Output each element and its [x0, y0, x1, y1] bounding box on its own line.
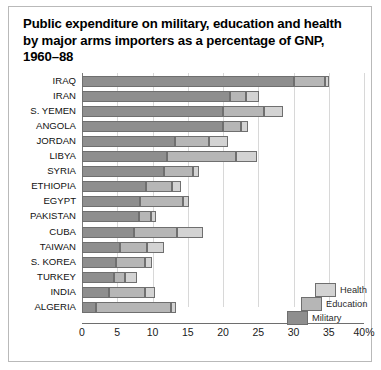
legend-swatch-military [287, 311, 308, 325]
bar-segment-military [82, 227, 134, 238]
bar-row: JORDAN [82, 136, 364, 147]
bar-segment-health [193, 166, 199, 177]
legend-swatch-education [301, 297, 322, 311]
bar-segment-military [82, 166, 164, 177]
bar-segment-health [151, 211, 156, 222]
bar-segment-education [223, 106, 264, 117]
bar-segment-military [82, 211, 139, 222]
bar-row: TURKEY [82, 272, 364, 283]
bar-segment-education [134, 227, 177, 238]
bar-segment-military [82, 181, 146, 192]
x-tick-label-25: 25 [252, 326, 264, 338]
x-tick-label-15: 15 [182, 326, 194, 338]
category-label-pakistan: PAKISTAN [30, 210, 76, 222]
bar-segment-military [82, 242, 120, 253]
legend-label-education: Education [326, 297, 367, 311]
x-tick-label-35: 35 [323, 326, 335, 338]
legend-swatch-health [315, 283, 336, 297]
chart-card: Public expenditure on military, educatio… [8, 6, 372, 362]
bar-segment-education [167, 151, 237, 162]
category-label-taiwan: TAIWAN [40, 241, 76, 253]
category-label-cuba: CUBA [49, 226, 76, 238]
bar-row: CUBA [82, 227, 364, 238]
bar-row: S. KOREA [82, 257, 364, 268]
bar-segment-education [116, 257, 145, 268]
bar-segment-health [125, 272, 137, 283]
category-label-egypt: EGYPT [43, 195, 76, 207]
bar-row: EGYPT [82, 196, 364, 207]
bar-segment-education [140, 196, 183, 207]
bar-row: IRAQ [82, 76, 364, 87]
bar-segment-health [246, 91, 259, 102]
bar-segment-military [82, 106, 223, 117]
bar-segment-education [114, 272, 125, 283]
bar-segment-education [223, 121, 241, 132]
bar-segment-education [109, 287, 146, 298]
category-label-iran: IRAN [53, 90, 76, 102]
bar-row: LIBYA [82, 151, 364, 162]
bar-segment-health [325, 76, 330, 87]
bar-segment-military [82, 257, 116, 268]
bar-segment-military [82, 287, 109, 298]
bar-row: SYRIA [82, 166, 364, 177]
bar-segment-education [294, 76, 325, 87]
bar-segment-health [209, 136, 228, 147]
bar-segment-education [120, 242, 147, 253]
category-label-algeria: ALGERIA [34, 301, 76, 313]
gridline-40 [364, 73, 365, 307]
x-tick-label-5: 5 [114, 326, 120, 338]
category-label-ethiopia: ETHIOPIA [31, 180, 76, 192]
x-tick-label-0: 0 [79, 326, 85, 338]
bar-segment-military [82, 196, 140, 207]
bar-segment-education [164, 166, 193, 177]
category-label-s-korea: S. KOREA [31, 256, 76, 268]
bar-segment-military [82, 136, 175, 147]
bar-segment-military [82, 272, 114, 283]
bar-segment-health [172, 181, 180, 192]
category-label-iraq: IRAQ [53, 75, 76, 87]
bar-segment-education [146, 181, 172, 192]
category-label-jordan: JORDAN [37, 135, 76, 147]
bar-segment-health [145, 287, 155, 298]
category-label-angola: ANGOLA [36, 120, 76, 132]
bar-row: PAKISTAN [82, 211, 364, 222]
bar-segment-military [82, 121, 223, 132]
bar-row: ANGOLA [82, 121, 364, 132]
bar-segment-military [82, 151, 167, 162]
bar-segment-health [177, 227, 203, 238]
bar-segment-health [145, 257, 152, 268]
legend-label-military: Military [312, 311, 341, 325]
bar-segment-education [175, 136, 209, 147]
bar-segment-education [230, 91, 246, 102]
bar-segment-health [183, 196, 189, 207]
bar-row: TAIWAN [82, 242, 364, 253]
bar-segment-education [96, 302, 171, 313]
x-tick-label-10: 10 [147, 326, 159, 338]
bar-segment-military [82, 76, 294, 87]
x-tick-label-40: 40% [353, 326, 374, 338]
bar-segment-military [82, 302, 96, 313]
x-tick-label-20: 20 [217, 326, 229, 338]
bar-row: IRAN [82, 91, 364, 102]
category-label-s-yemen: S. YEMEN [30, 105, 76, 117]
bar-segment-health [264, 106, 283, 117]
x-tick-label-30: 30 [288, 326, 300, 338]
chart-legend: Health Education Military [287, 283, 371, 327]
bar-row: ETHIOPIA [82, 181, 364, 192]
bar-segment-military [82, 91, 230, 102]
category-label-india: INDIA [50, 286, 76, 298]
category-label-syria: SYRIA [47, 165, 76, 177]
bar-row: S. YEMEN [82, 106, 364, 117]
legend-label-health: Health [340, 283, 367, 297]
bar-segment-health [171, 302, 176, 313]
category-label-libya: LIBYA [50, 150, 77, 162]
category-label-turkey: TURKEY [37, 271, 76, 283]
bar-segment-health [147, 242, 164, 253]
chart-title: Public expenditure on military, educatio… [23, 16, 353, 66]
bar-segment-health [241, 121, 249, 132]
bar-segment-health [236, 151, 256, 162]
bar-segment-education [139, 211, 151, 222]
